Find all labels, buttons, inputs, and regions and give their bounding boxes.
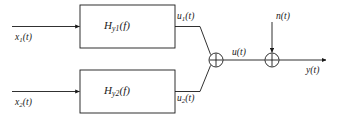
signal-n-label: n(t)	[276, 12, 290, 22]
signal-u1-label: u1(t)	[177, 12, 195, 22]
signal-y-label: y(t)	[306, 66, 320, 76]
signal-u2-path	[175, 65, 211, 91]
signal-u1-path	[175, 27, 211, 55]
filter-1-label: Hy1(f)	[104, 20, 130, 31]
filter-2-label: Hy2(f)	[104, 85, 130, 96]
input-1-label: x1(t)	[15, 33, 32, 43]
input-2-label: x2(t)	[15, 98, 32, 108]
block-diagram: x1(t) x2(t) Hy1(f) Hy2(f) u1(t) u2(t) u(…	[0, 0, 340, 119]
signal-u-label: u(t)	[232, 48, 246, 58]
signal-u2-label: u2(t)	[177, 94, 195, 104]
